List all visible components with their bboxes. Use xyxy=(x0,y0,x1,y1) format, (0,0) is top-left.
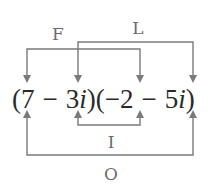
expression: (7−3i)(−2−5i) xyxy=(12,84,195,114)
paren-open-2: ( xyxy=(96,84,105,114)
paren-open-1: ( xyxy=(12,84,21,114)
term-d-i: i xyxy=(178,84,186,114)
arrow-down-icon xyxy=(136,75,144,83)
operator-2: − xyxy=(141,84,156,114)
term-b-i: i xyxy=(79,84,87,114)
paren-close-2: ) xyxy=(186,84,195,114)
first-label: F xyxy=(52,24,64,44)
term-d-coef: 5 xyxy=(165,84,179,114)
term-c: −2 xyxy=(105,84,134,114)
term-b-coef: 3 xyxy=(66,84,80,114)
arrow-down-icon xyxy=(74,75,82,83)
svg-text:(7−3i)(−2−5i): (7−3i)(−2−5i) xyxy=(12,84,195,114)
arrow-down-icon xyxy=(189,75,197,83)
arrow-down-icon xyxy=(23,75,31,83)
term-a: 7 xyxy=(21,84,35,114)
foil-diagram: F L (7−3i)(−2−5i) I O xyxy=(0,0,223,190)
paren-close-1: ) xyxy=(87,84,96,114)
inner-label: I xyxy=(108,132,115,152)
last-bracket: L xyxy=(74,18,197,83)
inner-bracket: I xyxy=(74,110,144,152)
last-label: L xyxy=(132,18,143,38)
operator-1: − xyxy=(43,84,58,114)
outer-label: O xyxy=(104,164,118,184)
first-bracket: F xyxy=(23,24,144,83)
